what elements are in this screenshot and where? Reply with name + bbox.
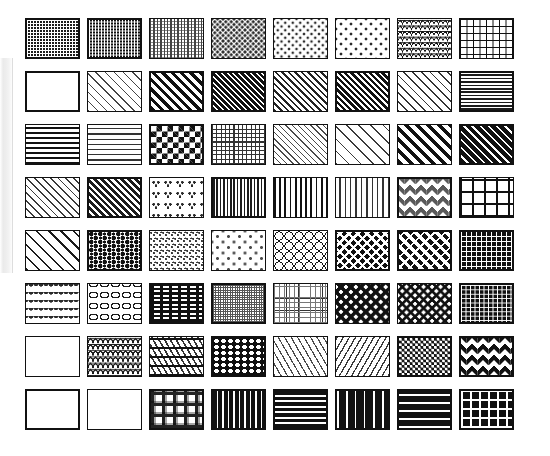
swatch-fill-scale-interlock (88, 337, 141, 376)
swatch-fill-vertical-lines-wide (274, 178, 327, 217)
swatch-tile-basketweave-diagonal[interactable] (397, 230, 452, 271)
swatch-fill-diagonal-dense-right (213, 73, 264, 110)
swatch-tile-diamond-dark-large[interactable] (459, 336, 514, 377)
swatch-fill-grid-dotted-light (274, 284, 327, 323)
swatch-fill-checkerboard-large (151, 126, 202, 163)
swatch-fill-clover-motif (150, 178, 203, 217)
swatch-tile-diagonal-heavy-right[interactable] (335, 71, 390, 112)
swatch-tile-fine-grid-grey[interactable] (87, 18, 142, 59)
swatch-tile-grid-fine-square[interactable] (211, 124, 266, 165)
swatch-tile-dense-weave-dark[interactable] (25, 18, 80, 59)
swatch-fill-dense-weave-dark (27, 20, 78, 57)
swatch-tile-vertical-bars-wide-dark[interactable] (335, 389, 390, 430)
swatch-fill-pebble-mottle (89, 232, 140, 269)
swatch-tile-herringbone-large[interactable] (335, 283, 390, 324)
swatch-tile-fish-scale[interactable] (397, 18, 452, 59)
swatch-tile-fan-floral-motif[interactable] (25, 283, 80, 324)
swatch-tile-brick-dark-small[interactable] (459, 283, 514, 324)
swatch-fill-fan-floral-motif (26, 284, 79, 323)
swatch-tile-dash-diagonal-light[interactable] (273, 336, 328, 377)
swatch-tile-grid-dark-heavy[interactable] (459, 389, 514, 430)
swatch-fill-diagonal-medium-right (274, 72, 327, 111)
swatch-tile-checkerboard-large[interactable] (149, 124, 204, 165)
swatch-tile-parquet-weave[interactable] (459, 230, 514, 271)
swatch-fill-vertical-bead-light (150, 19, 203, 58)
swatch-tile-horizontal-zigzag-fine[interactable] (25, 71, 80, 112)
swatch-fill-dash-diagonal-light (274, 337, 327, 376)
swatch-tile-vertical-zigzag-fine[interactable] (25, 389, 80, 430)
swatch-fill-vertical-bars-wide-dark (337, 391, 388, 428)
swatch-tile-crosshatch-dash[interactable] (397, 71, 452, 112)
swatch-fill-circles-lattice (274, 231, 327, 270)
swatch-fill-horizontal-zigzag-fine (27, 73, 78, 110)
swatch-tile-diagonal-dark-hatch[interactable] (87, 177, 142, 218)
swatch-tile-scale-interlock[interactable] (87, 336, 142, 377)
swatch-fill-diamond-dark-large (461, 338, 512, 375)
swatch-tile-diagonal-thin-right[interactable] (87, 71, 142, 112)
swatch-fill-diamond-ornament (399, 179, 450, 216)
swatch-tile-sparse-dots-cross[interactable] (273, 18, 328, 59)
swatch-tile-diagonal-dense-right[interactable] (211, 71, 266, 112)
swatch-tile-diamond-lattice-fine[interactable] (273, 124, 328, 165)
swatch-fill-sparse-dots-cross (274, 19, 327, 58)
swatch-tile-clover-motif[interactable] (149, 177, 204, 218)
swatch-fill-zigzag-dotted-rows (26, 337, 79, 376)
swatch-tile-diagonal-thin-wide-gap[interactable] (335, 124, 390, 165)
swatch-tile-horizontal-lines-wide[interactable] (25, 124, 80, 165)
pattern-sheet (0, 0, 550, 456)
swatch-tile-banded-diagonal-rows[interactable] (149, 336, 204, 377)
swatch-tile-vertical-bead-light[interactable] (149, 18, 204, 59)
swatch-fill-diagonal-bold-wide (398, 125, 451, 164)
swatch-tile-diagonal-light-hatch[interactable] (25, 177, 80, 218)
swatch-tile-zigzag-dotted-rows[interactable] (25, 336, 80, 377)
swatch-tile-diagonal-bold-wide[interactable] (397, 124, 452, 165)
swatch-tile-basketweave-dark[interactable] (335, 230, 390, 271)
swatch-fill-horizontal-zigzag-wide (88, 390, 141, 429)
swatch-fill-vertical-lines-fine (213, 179, 264, 216)
swatch-tile-plaid-check[interactable] (149, 389, 204, 430)
swatch-fill-banded-diagonal-rows (150, 337, 203, 376)
swatch-fill-speckle-fine (150, 231, 203, 270)
swatch-tile-diagonal-medium-right[interactable] (273, 71, 328, 112)
swatch-tile-sparse-star-dots[interactable] (335, 18, 390, 59)
swatch-fill-wave-scallop (88, 284, 141, 323)
swatch-fill-horizontal-bars-bold (275, 391, 326, 428)
swatch-fill-diagonal-solid-dark (461, 126, 512, 163)
swatch-tile-horizontal-bars-bold[interactable] (273, 389, 328, 430)
swatch-tile-grid-large-square[interactable] (459, 177, 514, 218)
swatch-tile-brick-running-bond[interactable] (459, 18, 514, 59)
swatch-tile-woven-diagonal-light[interactable] (397, 283, 452, 324)
swatch-tile-pebble-mottle[interactable] (87, 230, 142, 271)
swatch-tile-horizontal-zigzag-wide[interactable] (87, 389, 142, 430)
swatch-tile-vertical-bars-bold[interactable] (211, 389, 266, 430)
swatch-fill-checkerboard-small (399, 338, 450, 375)
swatch-tile-horizontal-bars-wide-dark[interactable] (397, 389, 452, 430)
swatch-tile-square-blocks-bold[interactable] (149, 283, 204, 324)
swatch-fill-horizontal-lines-wide (26, 125, 79, 164)
swatch-tile-diamond-net-large[interactable] (25, 230, 80, 271)
swatch-tile-dark-dot-rows[interactable] (211, 336, 266, 377)
swatch-tile-diagonal-solid-dark[interactable] (459, 124, 514, 165)
swatch-fill-diagonal-dark-hatch (89, 179, 140, 216)
swatch-tile-diamond-ornament[interactable] (397, 177, 452, 218)
swatch-tile-speckle-fine[interactable] (149, 230, 204, 271)
swatch-fill-square-blocks-bold (151, 285, 202, 322)
swatch-tile-vertical-lines-fine[interactable] (211, 177, 266, 218)
swatch-tile-vertical-lines-wide[interactable] (273, 177, 328, 218)
swatch-tile-dash-diagonal-medium[interactable] (335, 336, 390, 377)
swatch-fill-vertical-dotted-columns (336, 178, 389, 217)
swatch-fill-scattered-dots-medium (212, 19, 265, 58)
swatch-tile-grid-dotted-light[interactable] (273, 283, 328, 324)
swatch-fill-herringbone-large (336, 284, 389, 323)
swatch-tile-dots-sparse-grid[interactable] (211, 230, 266, 271)
swatch-tile-dashed-rows[interactable] (87, 124, 142, 165)
swatch-tile-wave-scallop[interactable] (87, 283, 142, 324)
swatch-tile-vertical-dotted-columns[interactable] (335, 177, 390, 218)
swatch-tile-horizontal-lines-fine[interactable] (459, 71, 514, 112)
swatch-tile-mesh-very-fine[interactable] (211, 283, 266, 324)
swatch-tile-circles-lattice[interactable] (273, 230, 328, 271)
swatch-fill-diagonal-heavy-right (337, 73, 388, 110)
swatch-tile-checkerboard-small[interactable] (397, 336, 452, 377)
swatch-tile-scattered-dots-medium[interactable] (211, 18, 266, 59)
swatch-tile-diagonal-bold-right[interactable] (149, 71, 204, 112)
